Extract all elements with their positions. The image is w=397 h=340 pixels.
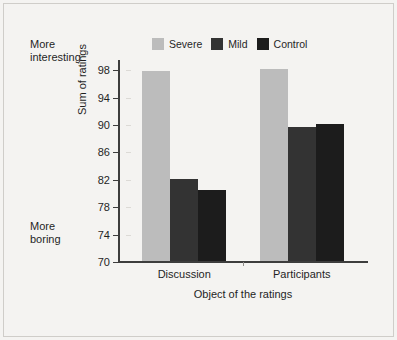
y-tick-mark-98 — [113, 70, 118, 71]
legend-entry-severe: Severe — [152, 38, 202, 50]
legend-label-severe: Severe — [169, 38, 202, 50]
legend-entry-mild: Mild — [211, 38, 247, 50]
y-tick-mark-78 — [113, 207, 118, 208]
y-axis-title: Sum of ratings — [76, 44, 88, 115]
y-tick-inner-mark-74 — [126, 235, 131, 236]
x-axis-title: Object of the ratings — [118, 288, 368, 300]
y-axis-line — [118, 60, 120, 262]
y-tick-mark-82 — [113, 180, 118, 181]
plot-area: 7074788286909498 DiscussionParticipants — [118, 60, 368, 262]
category-label-participants: Participants — [273, 268, 330, 280]
y-tick-label-98: 98 — [98, 64, 110, 76]
y-tick-label-74: 74 — [98, 229, 110, 241]
category-label-discussion: Discussion — [158, 268, 211, 280]
bar-participants-mild — [288, 127, 316, 261]
y-tick-inner-mark-82 — [126, 180, 131, 181]
y-tick-label-94: 94 — [98, 92, 110, 104]
y-tick-label-90: 90 — [98, 119, 110, 131]
y-tick-inner-mark-90 — [126, 125, 131, 126]
y-tick-inner-mark-86 — [126, 152, 131, 153]
y-tick-mark-94 — [113, 98, 118, 99]
x-axis-mid-tick — [243, 262, 244, 266]
y-tick-label-78: 78 — [98, 201, 110, 213]
bar-discussion-control — [198, 190, 226, 261]
y-tick-mark-90 — [113, 125, 118, 126]
y-tick-inner-mark-98 — [126, 70, 131, 71]
chart-legend: SevereMildControl — [152, 36, 307, 51]
bar-participants-severe — [260, 69, 288, 261]
y-tick-label-82: 82 — [98, 174, 110, 186]
bar-discussion-mild — [170, 179, 198, 261]
y-tick-mark-70 — [113, 262, 118, 263]
annotation-more-interesting: More interesting — [30, 38, 81, 64]
legend-entry-control: Control — [257, 38, 308, 50]
legend-swatch-control — [257, 38, 269, 50]
legend-label-mild: Mild — [228, 38, 247, 50]
legend-swatch-mild — [211, 38, 223, 50]
annotation-more-boring: More boring — [30, 220, 61, 246]
y-tick-inner-mark-78 — [126, 207, 131, 208]
bar-participants-control — [316, 124, 344, 261]
y-tick-mark-74 — [113, 235, 118, 236]
bar-discussion-severe — [142, 71, 170, 261]
chart-figure: More interesting More boring SevereMildC… — [0, 0, 397, 340]
legend-swatch-severe — [152, 38, 164, 50]
y-tick-mark-86 — [113, 152, 118, 153]
y-tick-inner-mark-94 — [126, 98, 131, 99]
y-tick-label-70: 70 — [98, 256, 110, 268]
y-tick-label-86: 86 — [98, 146, 110, 158]
legend-label-control: Control — [274, 38, 308, 50]
